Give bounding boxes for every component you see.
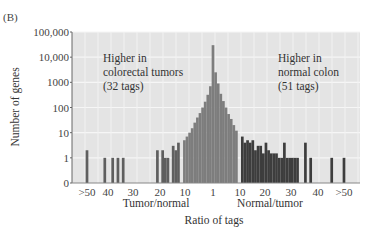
bar-center	[193, 123, 196, 183]
y-tick-label: 0	[64, 177, 70, 189]
bar-left	[117, 158, 120, 183]
y-tick-labels: 0110100100010,000100,000	[33, 26, 72, 189]
bar-center	[230, 119, 233, 183]
annotation-right-line-3: (51 tags)	[278, 80, 319, 93]
bar-right	[278, 158, 281, 183]
bar-center	[214, 72, 217, 183]
x-tick-label: >50	[78, 186, 96, 198]
bar-left	[111, 158, 114, 183]
bar-center	[209, 86, 212, 183]
y-tick-label: 100	[53, 102, 70, 114]
bar-center	[196, 118, 199, 183]
bar-left	[103, 158, 106, 183]
y-tick-label: 10	[58, 127, 70, 139]
bar-right	[291, 158, 294, 183]
bar-right	[241, 137, 244, 183]
bar-right	[309, 158, 312, 183]
bar-right	[343, 158, 346, 183]
bar-center	[206, 95, 209, 183]
x-group-label-left: Tumor/normal	[123, 197, 190, 209]
bar-right	[288, 158, 291, 183]
bar-left	[122, 158, 125, 183]
bar-left	[172, 146, 175, 183]
bar-right	[259, 146, 262, 183]
bar-right	[330, 158, 333, 183]
y-axis-title: Number of genes	[9, 67, 22, 147]
bar-right	[244, 143, 247, 183]
y-tick-label: 10,000	[39, 51, 70, 63]
bar-center	[217, 83, 220, 183]
bar-left	[177, 143, 180, 183]
bar-right	[273, 153, 276, 183]
bar-right	[280, 158, 283, 183]
bar-center	[183, 140, 186, 183]
bar-right	[296, 158, 299, 183]
bar-right	[294, 158, 297, 183]
annotation-left-line-1: Higher in	[103, 52, 147, 65]
bar-right	[262, 153, 265, 183]
bar-center	[232, 125, 235, 183]
bar-center	[227, 114, 230, 183]
x-tick-label: >50	[335, 186, 353, 198]
annotation-left-line-3: (32 tags)	[103, 80, 144, 93]
bar-right	[246, 140, 249, 183]
x-tick-label: 40	[103, 186, 115, 198]
annotation-left-line-2: colorectal tumors	[103, 66, 184, 78]
bar-right	[267, 150, 270, 183]
bar-center	[219, 94, 222, 183]
bar-center	[199, 113, 202, 183]
bar-left	[86, 150, 89, 183]
bar-right	[270, 153, 273, 183]
x-group-label-right: Normal/tumor	[237, 197, 303, 209]
x-axis-title: Ratio of tags	[185, 214, 244, 227]
bar-right	[257, 146, 260, 183]
bar-center	[188, 133, 191, 183]
bar-left	[164, 158, 167, 183]
bar-right	[283, 143, 286, 183]
histogram-chart: 0110100100010,000100,000 >50403020101102…	[0, 0, 370, 238]
bar-right	[251, 140, 254, 183]
y-tick-label: 1	[64, 152, 70, 164]
x-tick-label: 40	[313, 186, 325, 198]
bar-right	[275, 153, 278, 183]
y-tick-label: 1000	[47, 76, 70, 88]
bar-left	[174, 150, 177, 183]
bar-center	[201, 108, 204, 184]
annotation-right-line-2: normal colon	[278, 66, 339, 78]
bar-right	[286, 158, 289, 183]
bar-left	[161, 150, 164, 183]
bar-left	[167, 158, 170, 183]
bar-center	[191, 128, 194, 183]
bar-center	[204, 102, 207, 183]
bar-center	[212, 45, 215, 183]
bar-center	[225, 108, 228, 184]
bar-right	[304, 143, 307, 183]
bar-right	[254, 150, 257, 183]
bar-center	[186, 137, 189, 183]
x-tick-labels: >5040302010110203040>50	[78, 186, 353, 198]
bar-right	[265, 143, 268, 183]
bar-center	[235, 131, 238, 183]
bar-right	[249, 143, 252, 183]
bar-left	[156, 150, 159, 183]
annotation-right-line-1: Higher in	[278, 52, 322, 65]
x-tick-label: 1	[210, 186, 216, 198]
bar-center	[222, 101, 225, 183]
y-tick-label: 100,000	[33, 26, 69, 38]
